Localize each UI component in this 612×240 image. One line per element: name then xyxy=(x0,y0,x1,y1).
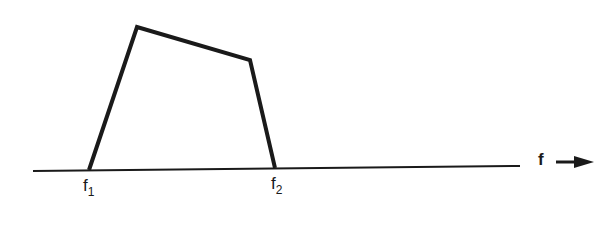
axis-label-text: f xyxy=(538,150,544,169)
f2-label-sub: 2 xyxy=(276,183,283,197)
f2-label: f2 xyxy=(271,174,282,197)
f1-label-sub: 1 xyxy=(88,185,95,199)
spectrum-shape xyxy=(89,27,275,170)
axis-label: f xyxy=(538,150,544,170)
f1-label: f1 xyxy=(83,176,94,199)
arrow-right-icon xyxy=(556,156,594,168)
